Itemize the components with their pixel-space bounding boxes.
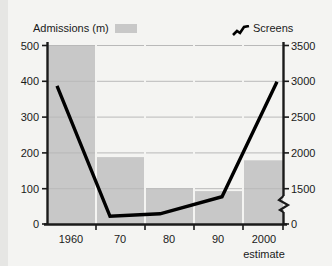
right-tick-2500: 2500: [291, 111, 315, 123]
chart-container: Admissions (m) Screens: [0, 0, 332, 266]
right-tick-2000: 2000: [291, 147, 315, 159]
right-axis: 3500 3000 2500 2000 1500 0: [279, 40, 315, 231]
chart-plot-area: 500 400 300 200 100 0 3500 3000 2500: [0, 0, 332, 266]
right-tick-1500: 1500: [291, 183, 315, 195]
right-tick-0: 0: [291, 218, 297, 230]
x-tick-2000: 2000: [252, 233, 276, 245]
right-tick-3000: 3000: [291, 75, 315, 87]
right-tick-3500: 3500: [291, 40, 315, 52]
left-tick-500: 500: [21, 40, 39, 52]
left-tick-400: 400: [21, 75, 39, 87]
x-tick-80: 80: [163, 233, 175, 245]
x-tick-90: 90: [212, 233, 224, 245]
left-tick-0: 0: [33, 218, 39, 230]
bar-2000: [244, 160, 283, 224]
bar-1960: [48, 45, 95, 224]
left-tick-100: 100: [21, 183, 39, 195]
x-tick-70: 70: [114, 233, 126, 245]
left-tick-300: 300: [21, 111, 39, 123]
x-axis: 1960 70 80 90 2000 estimate: [44, 224, 287, 260]
left-tick-200: 200: [21, 147, 39, 159]
x-axis-estimate-note: estimate: [243, 248, 285, 260]
left-axis: 500 400 300 200 100 0: [21, 40, 48, 231]
x-tick-1960: 1960: [59, 233, 83, 245]
